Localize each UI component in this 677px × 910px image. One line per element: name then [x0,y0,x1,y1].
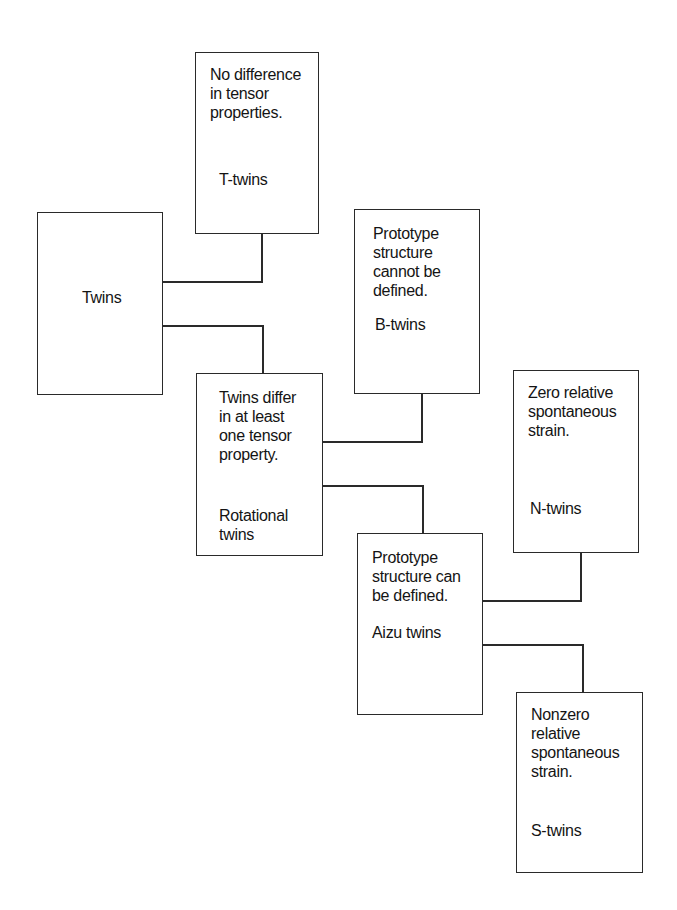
node-b-twins-name: B-twins [375,315,425,334]
connector-twins-to-rotational-horizontal [162,325,263,327]
node-aizu-twins: Prototype structure can be defined. Aizu… [357,533,483,715]
connector-aizu-to-n-twins-horizontal [482,600,582,602]
node-n-twins-description: Zero relative spontaneous strain. [528,383,616,440]
connector-twins-to-t-twins-horizontal [162,281,263,283]
node-rotational-twins-description: Twins differ in at least one tensor prop… [219,388,296,464]
connector-rotational-to-aizu-horizontal [322,485,423,487]
node-s-twins-name: S-twins [531,821,581,840]
connector-rotational-to-b-twins-horizontal [322,441,423,443]
node-t-twins: No difference in tensor properties. T-tw… [195,52,319,234]
node-rotational-twins: Twins differ in at least one tensor prop… [196,373,323,556]
connector-aizu-to-n-twins-vertical [580,552,582,601]
node-twins-root-name: Twins [82,288,121,307]
node-s-twins-description: Nonzero relative spontaneous strain. [531,705,619,781]
connector-twins-to-rotational-vertical [262,325,264,374]
node-rotational-twins-name: Rotational twins [219,506,288,544]
connector-aizu-to-s-twins-horizontal [482,644,583,646]
node-t-twins-description: No difference in tensor properties. [210,65,301,122]
node-b-twins-description: Prototype structure cannot be defined. [373,224,441,300]
node-t-twins-name: T-twins [219,170,268,189]
connector-twins-to-t-twins-vertical [261,233,263,282]
connector-rotational-to-aizu-vertical [422,485,424,534]
node-b-twins: Prototype structure cannot be defined. B… [354,209,480,394]
node-n-twins: Zero relative spontaneous strain. N-twin… [513,370,639,553]
node-twins-root: Twins [37,212,163,395]
node-aizu-twins-name: Aizu twins [372,623,441,642]
node-s-twins: Nonzero relative spontaneous strain. S-t… [516,692,643,873]
connector-rotational-to-b-twins-vertical [421,393,423,442]
node-n-twins-name: N-twins [530,499,581,518]
node-aizu-twins-description: Prototype structure can be defined. [372,548,461,605]
connector-aizu-to-s-twins-vertical [582,644,584,693]
